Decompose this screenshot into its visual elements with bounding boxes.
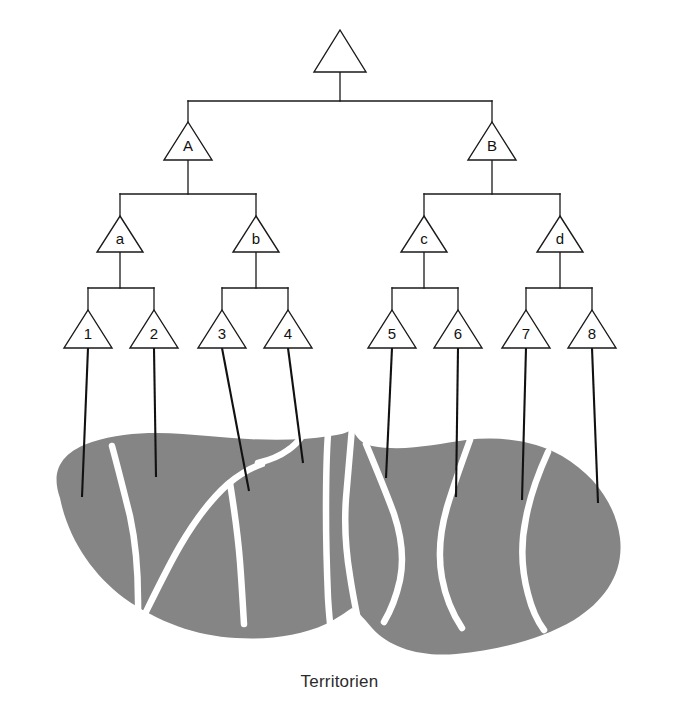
node-leaf-1[interactable]: 1 <box>64 310 112 348</box>
node-B-label: B <box>487 137 497 154</box>
node-leaf-3[interactable]: 3 <box>198 310 246 348</box>
node-leaf-6[interactable]: 6 <box>434 310 482 348</box>
node-b[interactable]: b <box>233 216 279 252</box>
node-root[interactable] <box>314 30 366 72</box>
tree-connectors <box>88 72 592 313</box>
territory-map <box>57 428 621 655</box>
figure-caption: Territorien <box>0 672 679 692</box>
node-leaf-2[interactable]: 2 <box>130 310 178 348</box>
node-a-label: a <box>116 230 125 247</box>
node-leaf-5[interactable]: 5 <box>368 310 416 348</box>
node-B[interactable]: B <box>468 122 516 160</box>
node-b-label: b <box>252 230 260 247</box>
node-A-label: A <box>183 137 193 154</box>
node-leaf-8[interactable]: 8 <box>568 310 616 348</box>
node-leaf-7[interactable]: 7 <box>502 310 550 348</box>
leader-line-8 <box>592 348 598 503</box>
node-d[interactable]: d <box>537 216 583 252</box>
node-leaf-4[interactable]: 4 <box>264 310 312 348</box>
node-leaf-1-label: 1 <box>84 325 92 342</box>
territories-figure: A B a b c <box>0 0 679 724</box>
node-A[interactable]: A <box>164 122 212 160</box>
node-leaf-8-label: 8 <box>588 325 596 342</box>
node-c[interactable]: c <box>401 216 447 252</box>
diagram-canvas: A B a b c <box>0 0 679 724</box>
node-leaf-4-label: 4 <box>284 325 292 342</box>
node-leaf-5-label: 5 <box>388 325 396 342</box>
node-leaf-2-label: 2 <box>150 325 158 342</box>
node-leaf-6-label: 6 <box>454 325 462 342</box>
node-c-label: c <box>420 230 428 247</box>
node-leaf-7-label: 7 <box>522 325 530 342</box>
triangle-icon <box>314 30 366 72</box>
node-leaf-3-label: 3 <box>218 325 226 342</box>
node-d-label: d <box>556 230 564 247</box>
node-a[interactable]: a <box>97 216 143 252</box>
